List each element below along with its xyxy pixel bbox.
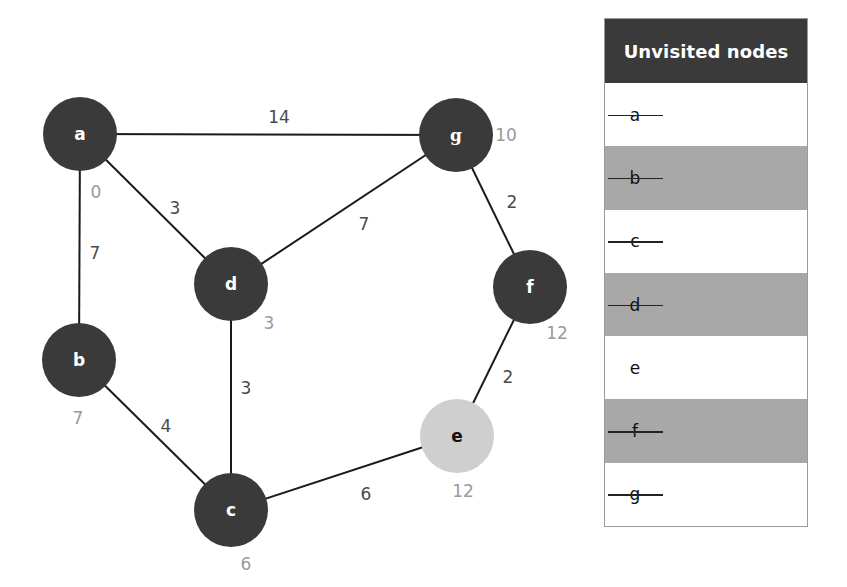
edge-weight-g-f: 2	[507, 192, 518, 212]
table-row-g: g	[605, 463, 807, 526]
strikethrough-line	[608, 178, 663, 180]
node-label-d: d	[225, 274, 237, 294]
node-label-c: c	[226, 500, 236, 520]
table-row-c: c	[605, 210, 807, 273]
distance-label-e: 12	[452, 481, 474, 501]
strikethrough-line	[608, 494, 663, 496]
distance-label-g: 10	[495, 125, 517, 145]
node-name: e	[605, 336, 665, 399]
distance-label-d: 3	[264, 313, 275, 333]
distance-label-c: 6	[241, 554, 252, 574]
graph-diagram: abcdefg 14377234260763121210	[0, 0, 600, 587]
distance-label-a: 0	[91, 182, 102, 202]
table-row-a: a	[605, 83, 807, 146]
edge-weight-d-g: 7	[359, 214, 370, 234]
table-row-e: e	[605, 336, 807, 399]
table-body: abcdefg	[605, 83, 807, 526]
nodes-layer: abcdefg	[42, 97, 567, 547]
distance-label-b: 7	[73, 408, 84, 428]
node-label-b: b	[73, 350, 85, 370]
edge-weight-d-c: 3	[241, 378, 252, 398]
strikethrough-line	[608, 115, 663, 117]
edge-a-g	[80, 134, 456, 135]
node-e: e	[420, 399, 494, 473]
edge-d-g	[231, 135, 456, 284]
edge-weight-a-b: 7	[90, 243, 101, 263]
node-c: c	[194, 473, 268, 547]
table-header: Unvisited nodes	[605, 19, 807, 83]
strikethrough-line	[608, 241, 663, 243]
node-a: a	[43, 97, 117, 171]
edge-weight-a-d: 3	[170, 198, 181, 218]
strikethrough-line	[608, 431, 663, 433]
node-label-e: e	[451, 426, 463, 446]
node-d: d	[194, 247, 268, 321]
distance-label-f: 12	[546, 323, 568, 343]
node-b: b	[42, 323, 116, 397]
edge-weight-a-g: 14	[268, 107, 290, 127]
labels-layer: 14377234260763121210	[73, 107, 568, 574]
table-row-f: f	[605, 399, 807, 462]
node-g: g	[419, 98, 493, 172]
edge-weight-c-e: 6	[361, 484, 372, 504]
node-label-f: f	[526, 277, 534, 297]
node-f: f	[493, 250, 567, 324]
table-row-b: b	[605, 146, 807, 209]
strikethrough-line	[608, 305, 663, 307]
edge-weight-b-c: 4	[161, 416, 172, 436]
node-label-g: g	[450, 125, 462, 145]
unvisited-nodes-table: Unvisited nodes abcdefg	[604, 18, 808, 527]
edge-weight-f-e: 2	[503, 367, 514, 387]
table-row-d: d	[605, 273, 807, 336]
node-label-a: a	[74, 124, 85, 144]
